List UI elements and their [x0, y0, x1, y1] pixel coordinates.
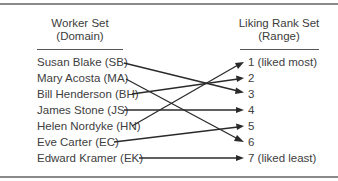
arrow-ek-to-7 — [139, 155, 244, 161]
mapping-arrows — [0, 0, 338, 181]
arrow-sb-to-3 — [124, 63, 244, 94]
frame-bottom-rule — [0, 176, 338, 178]
arrow-js-to-4 — [124, 107, 244, 113]
arrow-hn-to-1 — [132, 62, 244, 126]
arrow-ec-to-5 — [114, 124, 244, 143]
